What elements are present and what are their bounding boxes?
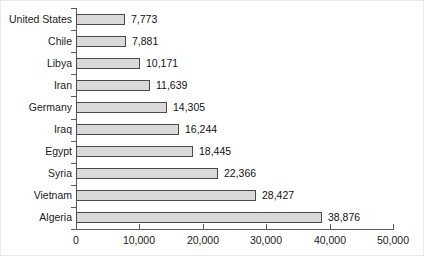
value-axis-tick [203, 224, 204, 229]
value-axis-tick-label: 10,000 [123, 234, 155, 246]
bar-chart: United States7,773Chile7,881Libya10,171I… [0, 0, 424, 256]
bar-value-label: 22,366 [224, 167, 256, 179]
bar[interactable] [76, 124, 179, 135]
category-label: United States [9, 14, 72, 25]
bar-value-label: 7,773 [131, 13, 157, 25]
bar-value-label: 11,639 [156, 79, 187, 91]
value-axis-tick-label: 20,000 [187, 234, 219, 246]
category-label: Syria [48, 168, 72, 179]
bar[interactable] [76, 102, 167, 113]
category-tick [71, 207, 76, 208]
bar[interactable] [76, 190, 256, 201]
bar-row[interactable]: 11,639 [76, 80, 393, 91]
category-label: Libya [47, 58, 72, 69]
bar-value-label: 38,876 [328, 211, 360, 223]
bar[interactable] [76, 80, 150, 91]
bar-value-label: 14,305 [173, 101, 205, 113]
category-tick [71, 96, 76, 97]
category-tick [71, 141, 76, 142]
category-tick [71, 185, 76, 186]
bar[interactable] [76, 58, 140, 69]
bar-row[interactable]: 7,773 [76, 14, 393, 25]
bar[interactable] [76, 212, 322, 223]
bar-value-label: 28,427 [262, 189, 294, 201]
value-axis-tick [393, 224, 394, 229]
category-tick [71, 119, 76, 120]
bar[interactable] [76, 36, 126, 47]
bar-value-label: 7,881 [132, 35, 158, 47]
bar-row[interactable]: 14,305 [76, 102, 393, 113]
value-axis-tick [330, 224, 331, 229]
category-label: Iraq [54, 124, 72, 135]
category-tick [71, 30, 76, 31]
category-tick [71, 8, 76, 9]
bar-row[interactable]: 28,427 [76, 190, 393, 201]
plot-area: United States7,773Chile7,881Libya10,171I… [0, 0, 424, 256]
value-axis-tick-label: 30,000 [250, 234, 282, 246]
value-axis-tick [139, 224, 140, 229]
bar[interactable] [76, 168, 218, 179]
category-tick [71, 229, 76, 230]
value-axis-tick [266, 224, 267, 229]
bar-row[interactable]: 18,445 [76, 146, 393, 157]
bar-value-label: 10,171 [146, 57, 178, 69]
bar-row[interactable]: 10,171 [76, 58, 393, 69]
bar-row[interactable]: 16,244 [76, 124, 393, 135]
bar-row[interactable]: 38,876 [76, 212, 393, 223]
bar-row[interactable]: 22,366 [76, 168, 393, 179]
value-axis-tick-label: 0 [73, 234, 79, 246]
category-label: Vietnam [34, 190, 72, 201]
category-label: Iran [54, 80, 72, 91]
category-tick [71, 163, 76, 164]
bar-row[interactable]: 7,881 [76, 36, 393, 47]
category-tick [71, 74, 76, 75]
bar[interactable] [76, 14, 125, 25]
category-label: Algeria [39, 212, 72, 223]
category-label: Egypt [45, 146, 72, 157]
category-tick [71, 52, 76, 53]
bar-value-label: 16,244 [185, 123, 217, 135]
category-label: Germany [29, 102, 72, 113]
value-axis-line [76, 229, 394, 230]
value-axis-tick-label: 50,000 [377, 234, 409, 246]
value-axis-tick [76, 224, 77, 229]
bar-value-label: 18,445 [199, 145, 231, 157]
bar[interactable] [76, 146, 193, 157]
value-axis-tick-label: 40,000 [314, 234, 346, 246]
category-label: Chile [48, 36, 72, 47]
